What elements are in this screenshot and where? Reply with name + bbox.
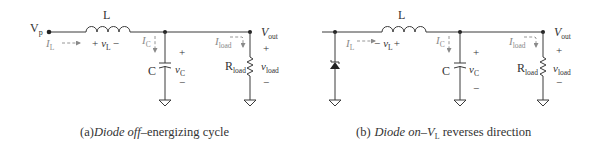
current-arrow-iload [230, 37, 243, 47]
vc-plus: + [473, 46, 479, 58]
vload-label: vload [261, 60, 279, 75]
vout-label: Vout [261, 25, 279, 41]
buck-converter-diagram: Vp L +vL− IL IC C + vC − Iload Vout + Rl… [0, 0, 600, 149]
vload-plus: + [263, 42, 269, 54]
vload-plus: + [556, 44, 562, 56]
rload-label: Rload [225, 59, 246, 75]
resistor-symbol [247, 57, 253, 76]
iload-label: Iload [214, 35, 232, 50]
current-arrow-iload [524, 37, 536, 47]
ic-label: IC [141, 34, 151, 49]
vl-label: −vL+ [374, 37, 400, 52]
panel-b-circuit: L −vL+ IL IC C + vC − Iload Vout + Rload… [322, 8, 572, 141]
capacitor-label: C [148, 64, 156, 78]
inductor-label: L [103, 8, 110, 22]
vc-plus: + [179, 46, 185, 58]
ground-icon [159, 100, 171, 106]
ground-icon [537, 100, 549, 106]
iload-label: Iload [508, 35, 526, 50]
inductor-symbol [86, 27, 130, 33]
ground-icon [244, 100, 256, 106]
source-node-dot [47, 30, 52, 35]
vc-label: vC [469, 63, 479, 78]
vc-minus: − [473, 82, 479, 94]
resistor-symbol [540, 57, 546, 76]
source-label: Vp [30, 21, 43, 37]
ic-label: IC [435, 34, 445, 49]
vload-minus: − [556, 76, 562, 88]
vc-minus: − [179, 76, 185, 88]
vload-label: vload [553, 62, 571, 77]
rload-label: Rload [517, 61, 538, 77]
vload-minus: − [263, 76, 269, 88]
panel-a-circuit: Vp L +vL− IL IC C + vC − Iload Vout + Rl… [30, 8, 279, 139]
capacitor-label: C [442, 64, 450, 78]
ground-icon [329, 100, 341, 106]
vl-label: +vL− [92, 37, 119, 52]
il-label: IL [345, 37, 355, 52]
inductor-label: L [398, 8, 405, 22]
caption-b: (b)Diode on–VL reverses direction [356, 125, 532, 141]
ground-icon [454, 100, 466, 106]
vout-label: Vout [554, 25, 572, 41]
caption-a: (a)Diode off–energizing cycle [80, 125, 229, 139]
il-label: IL [45, 37, 55, 52]
inductor-symbol [382, 27, 426, 33]
